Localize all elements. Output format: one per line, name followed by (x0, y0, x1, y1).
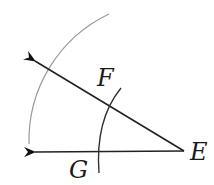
lower-ray (35, 151, 184, 152)
label-g: G (69, 156, 88, 184)
angle-construction-diagram: F G E (0, 0, 214, 185)
label-f: F (96, 64, 115, 92)
label-e: E (189, 138, 208, 166)
